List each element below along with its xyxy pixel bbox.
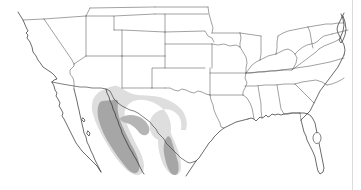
border-westvirginia-outline [295,34,332,54]
gulf-island-angel [82,118,85,122]
border-nebraska-southdakota [165,31,214,42]
border-illinois-wisconsin [240,33,261,36]
baja-california-pacific-coast [52,82,101,172]
lake-okeechobee [313,133,321,144]
border-utah-wyoming [86,16,114,30]
border-missouri-illinois [240,47,247,73]
border-iowa-missouri [212,44,240,47]
border-nevada-idaho [44,16,86,19]
border-alabama-georgia [277,85,284,114]
border-texas-louisiana [210,95,224,128]
border-oklahoma-texas-redriver [165,88,210,95]
border-montana-north [90,7,155,8]
border-wyoming-colorado [122,30,165,32]
border-wyoming-nebraska [155,14,165,32]
border-kentucky-indiana [260,54,276,60]
gulf-coast-louisiana [248,113,300,121]
border-mississippi-alabama [258,86,262,118]
border-virginia-northcarolina [327,78,344,85]
border-virginia-maryland [319,38,341,49]
border-kentucky-ohio [276,49,295,54]
texas-gulf-coast [196,119,248,161]
state-borders-group [23,7,348,128]
map-canvas [0,0,361,190]
border-newmexico-texas-north [152,56,165,88]
border-louisiana-mississippi [243,95,254,119]
border-southcarolina-northcarolina [295,80,327,85]
pacific-coast-california [18,12,57,82]
border-arkansas-mississippi [243,73,247,95]
gulf-island-tiburon [87,131,90,136]
border-kentucky-illinois [246,60,260,73]
atlantic-coast-southeast [301,55,344,120]
border-georgia-southcarolina [295,84,314,103]
border-nevada-arizona [74,56,86,64]
border-iowa-illinois [240,33,241,47]
coastlines-group [18,12,346,176]
border-idaho-montana [86,8,90,16]
lakes-group [313,133,321,144]
border-indiana-ohio [276,36,278,54]
border-tennessee-mississippi-alabama [245,84,295,86]
border-illinois-indiana [260,36,261,60]
border-wyoming-montana [114,14,155,16]
distribution-map-figure [0,0,361,190]
border-oregon-california-north [23,19,44,20]
florida-coast [300,113,324,174]
border-ohio-pennsylvania [308,27,313,48]
mexico-gulf-coast [186,161,196,176]
border-great-lakes-region [278,27,308,36]
border-dakotas-minnesota [208,7,213,33]
border-california-nevada [44,19,74,64]
border-utah-colorado [114,30,122,56]
